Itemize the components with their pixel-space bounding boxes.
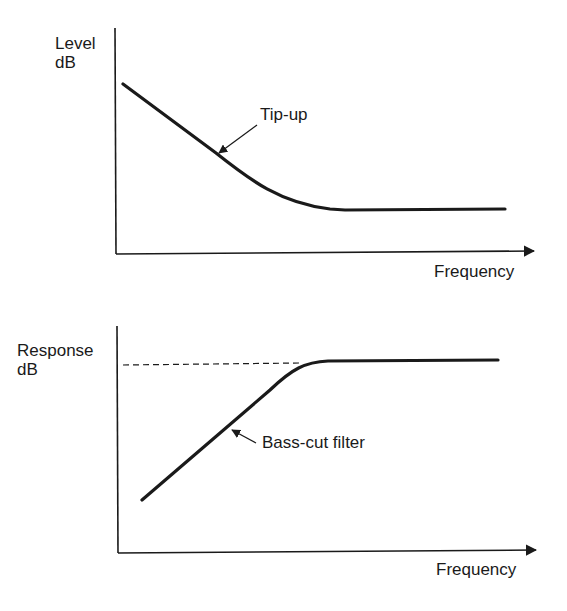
- tip-up-annotation: Tip-up: [260, 105, 308, 124]
- bass-cut-filter-annotation: Bass-cut filter: [262, 433, 365, 452]
- diagram-canvas: [0, 0, 567, 611]
- bottom-y-axis: [117, 326, 118, 553]
- top-y-axis: [115, 28, 116, 254]
- top-y-axis-label: Level dB: [55, 34, 96, 72]
- tip-up-curve: [123, 84, 505, 210]
- bass-cut-filter-curve: [142, 360, 498, 500]
- bottom-x-axis-arrow: [118, 550, 536, 553]
- tip-up-pointer-arrow: [219, 125, 257, 153]
- top-y-label-line2: dB: [55, 53, 96, 72]
- bottom-y-axis-label: Response dB: [17, 341, 94, 379]
- bottom-x-axis-label: Frequency: [436, 560, 516, 579]
- bass-cut-pointer-arrow: [232, 430, 256, 443]
- top-x-axis-arrow: [116, 251, 534, 254]
- top-chart: [115, 28, 534, 254]
- bottom-y-label-line2: dB: [17, 360, 94, 379]
- top-y-label-line1: Level: [55, 34, 96, 53]
- top-x-axis-label: Frequency: [434, 262, 514, 281]
- bottom-y-label-line1: Response: [17, 341, 94, 360]
- reference-level-dashed-line: [123, 363, 300, 365]
